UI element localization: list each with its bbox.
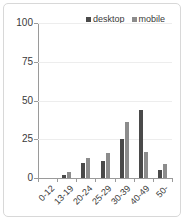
x-tick-mark-1 — [57, 178, 58, 182]
legend-swatch-mobile — [132, 17, 137, 22]
y-tick-label-50: 50 — [0, 96, 33, 106]
y-tick-label-0: 0 — [0, 173, 33, 183]
y-tick-label-100: 100 — [0, 18, 33, 28]
plot-area — [38, 23, 172, 178]
x-tick-mark-3 — [95, 178, 96, 182]
bar-group-50- — [38, 23, 172, 178]
x-tick-mark-5 — [134, 178, 135, 182]
y-tick-label-75: 75 — [0, 57, 33, 67]
y-tick-label-25: 25 — [0, 134, 33, 144]
x-tick-mark-7 — [172, 178, 173, 182]
bar-desktop-50-[interactable] — [158, 170, 162, 178]
x-tick-mark-2 — [76, 178, 77, 182]
legend-swatch-desktop — [86, 17, 91, 22]
x-tick-mark-6 — [153, 178, 154, 182]
x-tick-mark-0 — [38, 178, 39, 182]
x-tick-mark-4 — [115, 178, 116, 182]
bar-mobile-50-[interactable] — [163, 164, 167, 178]
bar-chart: desktop mobile 0255075100 0-1213-1920-24… — [0, 0, 184, 220]
